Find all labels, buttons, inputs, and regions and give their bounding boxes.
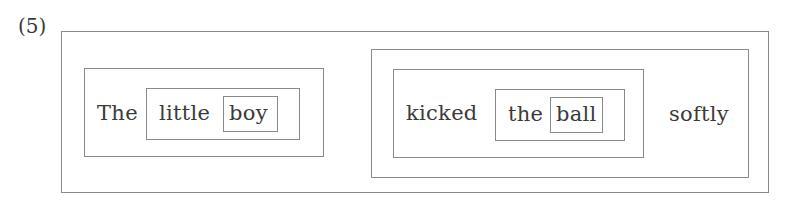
word-the-object: the (508, 102, 543, 126)
example-number-label: (5) (18, 14, 46, 38)
word-little: little (159, 101, 210, 125)
word-boy: boy (229, 101, 268, 125)
word-the-subject: The (97, 101, 138, 125)
word-softly: softly (669, 102, 729, 126)
word-kicked: kicked (406, 101, 478, 125)
word-ball: ball (556, 102, 597, 126)
